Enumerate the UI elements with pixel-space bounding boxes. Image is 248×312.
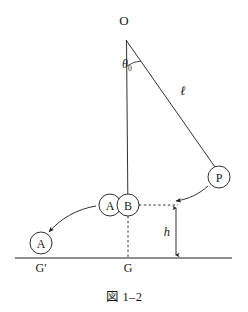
bob-motion-arrow (176, 186, 208, 201)
label-ground-g-prime: G' (36, 261, 47, 275)
label-length-ell: ℓ (180, 83, 186, 98)
label-height-h: h (164, 225, 170, 239)
label-bob-p: P (216, 171, 223, 185)
label-node-a-upper: A (106, 199, 115, 213)
projectile-path-arrow (49, 206, 96, 232)
pendulum-diagram: O θ0 ℓ P A B A h G' G (0, 0, 248, 312)
figure-container: O θ0 ℓ P A B A h G' G 図 1–2 (0, 0, 248, 312)
pendulum-string (126, 40, 215, 167)
label-angle-theta: θ0 (122, 57, 132, 73)
label-ground-g: G (124, 261, 133, 275)
theta-subscript: 0 (128, 64, 132, 73)
label-pivot-o: O (119, 13, 128, 28)
figure-caption: 図 1–2 (0, 286, 248, 305)
label-node-b: B (124, 199, 132, 213)
label-node-a-lower: A (37, 237, 46, 251)
